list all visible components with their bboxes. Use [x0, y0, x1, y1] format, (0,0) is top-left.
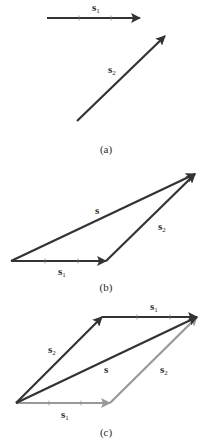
caption-a: (a): [100, 143, 113, 156]
label-s: s: [95, 204, 100, 216]
label-s: s: [104, 363, 109, 375]
vector-s2: [77, 36, 165, 121]
panel-a: s1 s2 (a): [47, 1, 165, 156]
panel-b: s s2 s1 (b): [11, 174, 195, 294]
caption-c: (c): [100, 426, 113, 439]
label-s2: s2: [108, 63, 116, 77]
label-s1-bottom: s1: [61, 408, 69, 422]
vector-s2: [106, 174, 195, 261]
label-s2: s2: [158, 220, 166, 234]
vector-addition-diagram: s1 s2 (a) s s2 s1 (b) s1 s2 s s2 s1 (c): [0, 0, 212, 445]
panel-c: s1 s2 s s2 s1 (c): [16, 300, 197, 439]
caption-b: (b): [100, 281, 113, 294]
label-s1-top: s1: [150, 300, 158, 314]
label-s1: s1: [92, 1, 100, 15]
label-s1: s1: [58, 265, 66, 279]
label-s2-right: s2: [160, 363, 168, 377]
vector-s: [11, 174, 195, 261]
vector-s2-right: [110, 317, 197, 403]
vector-s2-left: [16, 317, 102, 403]
vector-s: [16, 317, 197, 403]
label-s2-left: s2: [48, 343, 56, 357]
